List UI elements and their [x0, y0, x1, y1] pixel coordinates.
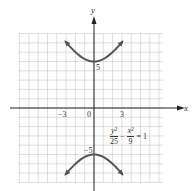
y-tick-5: 5 — [96, 64, 100, 72]
axes — [10, 16, 185, 191]
eq-rhs: = 1 — [136, 132, 147, 141]
fraction-x: x² 9 — [127, 127, 135, 146]
x-tick-0: 0 — [87, 111, 91, 119]
fraction-y: y² 25 — [110, 127, 118, 146]
eq-denominator-9: 9 — [128, 137, 132, 146]
y-axis-label: y — [91, 6, 95, 15]
eq-numerator-y: y² — [110, 127, 118, 137]
equation-label: y² 25 − x² 9 = 1 — [110, 127, 147, 146]
eq-numerator-x: x² — [127, 127, 135, 137]
x-axis-label: x — [184, 104, 188, 113]
hyperbola-graph — [0, 0, 195, 191]
x-tick-3: 3 — [120, 111, 124, 119]
eq-denominator-25: 25 — [110, 137, 118, 146]
x-tick-neg3: −3 — [58, 111, 67, 119]
y-tick-neg5: −5 — [84, 147, 93, 155]
eq-minus: − — [120, 132, 125, 141]
